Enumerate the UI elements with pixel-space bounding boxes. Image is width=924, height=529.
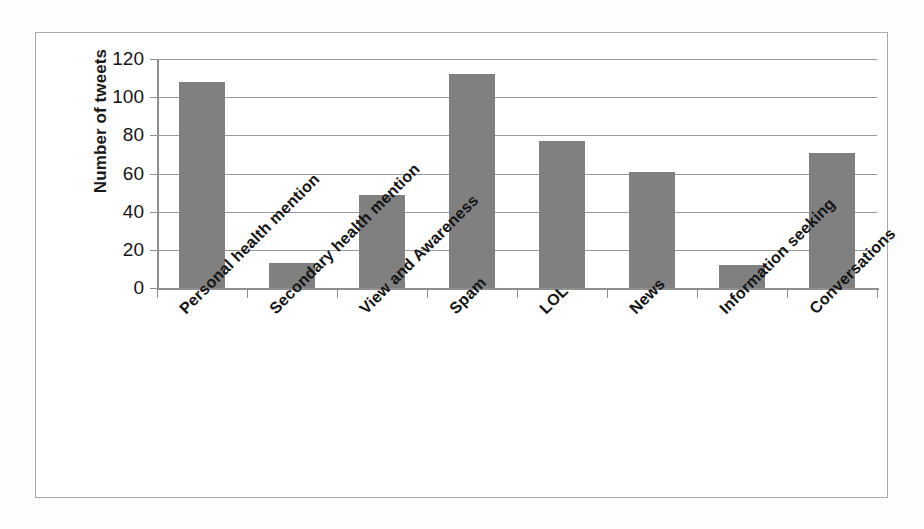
x-axis-line — [157, 288, 879, 290]
gridline — [157, 174, 877, 175]
x-tick-mark — [157, 289, 158, 298]
chart-frame: Number of tweets 020406080100120 Persona… — [35, 32, 888, 498]
gridline — [157, 59, 877, 60]
y-tick-label: 80 — [66, 125, 144, 144]
x-tick-mark — [247, 289, 248, 298]
bar — [179, 82, 225, 288]
x-tick-mark — [877, 289, 878, 298]
y-tick-label: 20 — [66, 240, 144, 259]
gridline — [157, 212, 877, 213]
x-tick-mark — [607, 289, 608, 298]
x-tick-mark — [517, 289, 518, 298]
gridline — [157, 97, 877, 98]
bar — [539, 141, 585, 288]
y-axis-title: Number of tweets — [91, 16, 111, 226]
gridline — [157, 135, 877, 136]
y-tick-label: 0 — [66, 278, 144, 297]
y-tick-label: 60 — [66, 164, 144, 183]
y-tick-label: 40 — [66, 202, 144, 221]
y-tick-label: 100 — [66, 87, 144, 106]
chart-screenshot: Number of tweets 020406080100120 Persona… — [0, 0, 924, 529]
x-tick-mark — [427, 289, 428, 298]
x-tick-mark — [787, 289, 788, 298]
x-tick-mark — [337, 289, 338, 298]
bar — [449, 74, 495, 288]
y-tick-label: 120 — [66, 49, 144, 68]
bar — [629, 172, 675, 288]
x-tick-mark — [697, 289, 698, 298]
